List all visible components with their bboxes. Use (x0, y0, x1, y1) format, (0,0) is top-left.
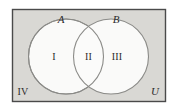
region-three-label: III (112, 51, 123, 62)
universal-set-label: U (151, 85, 160, 97)
region-four-label: IV (18, 86, 30, 97)
set-a-label: A (57, 13, 65, 25)
region-one-label: I (52, 51, 56, 62)
region-two-label: II (85, 51, 92, 62)
venn-diagram-figure: A B I II III IV U (0, 0, 179, 112)
set-b-label: B (113, 13, 120, 25)
venn-diagram-canvas: A B I II III IV U (0, 0, 179, 112)
